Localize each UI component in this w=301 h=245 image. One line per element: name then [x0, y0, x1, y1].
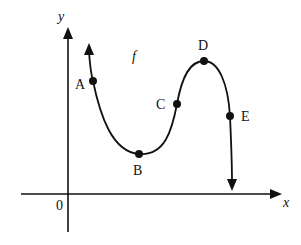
- function-curve: [89, 52, 232, 182]
- point-c: [173, 100, 181, 108]
- point-e: [226, 112, 234, 120]
- graph-canvas: [0, 0, 301, 245]
- point-b-label: B: [133, 164, 142, 178]
- point-b: [135, 150, 143, 158]
- function-label: f: [132, 50, 136, 64]
- point-c-label: C: [156, 98, 165, 112]
- origin-label: 0: [56, 199, 63, 213]
- x-axis-label: x: [283, 196, 289, 210]
- point-a: [89, 77, 97, 85]
- point-a-label: A: [75, 78, 85, 92]
- function-graph: y x 0 f A B C D E: [0, 0, 301, 245]
- x-axis-arrow-icon: [270, 189, 282, 199]
- point-d: [200, 57, 208, 65]
- curve-bottom-arrow-icon: [227, 179, 237, 191]
- point-e-label: E: [241, 110, 250, 124]
- point-d-label: D: [198, 39, 208, 53]
- y-axis-arrow-icon: [63, 27, 73, 39]
- curve-top-arrow-icon: [84, 43, 94, 55]
- y-axis-label: y: [58, 10, 64, 24]
